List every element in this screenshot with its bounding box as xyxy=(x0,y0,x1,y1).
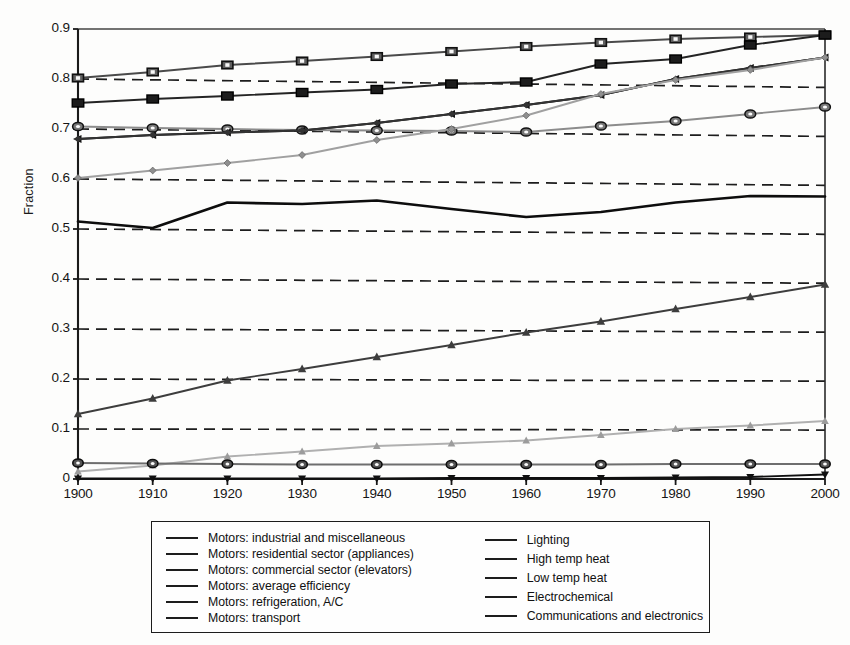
data-marker xyxy=(299,152,306,159)
legend-item: Motors: average efficiency xyxy=(162,578,473,594)
y-tick-label: 0.1 xyxy=(28,420,70,435)
data-marker xyxy=(372,461,382,469)
series-3 xyxy=(78,196,825,228)
y-axis-tick-labels: 0.90.80.70.60.50.40.30.20.10 xyxy=(24,0,70,500)
data-marker xyxy=(595,60,607,68)
series-line xyxy=(78,196,825,228)
data-marker xyxy=(521,128,532,136)
legend-item-label: Motors: transport xyxy=(208,611,300,625)
data-marker xyxy=(73,459,83,467)
data-marker xyxy=(147,68,158,76)
line-plain-icon xyxy=(162,578,202,594)
y-tick-label: 0.4 xyxy=(28,270,70,285)
data-marker xyxy=(371,126,382,134)
legend-item: Motors: transport xyxy=(162,610,473,626)
data-marker xyxy=(446,80,458,88)
data-marker xyxy=(596,461,606,469)
data-marker xyxy=(523,112,530,119)
y-tick-label: 0.2 xyxy=(28,370,70,385)
y-tick-label: 0.7 xyxy=(28,120,70,135)
data-marker xyxy=(148,460,158,468)
legend-item-label: Motors: average efficiency xyxy=(208,579,350,593)
data-marker xyxy=(670,117,681,125)
legend-item-label: High temp heat xyxy=(527,552,610,566)
gridline xyxy=(78,279,825,283)
data-marker xyxy=(670,35,681,43)
legend-item: Electrochemical xyxy=(481,588,703,607)
x-axis-tick-labels: 1900191019201930194019501960197019801990… xyxy=(0,486,850,510)
y-tick-label: 0 xyxy=(28,470,70,485)
triangle-left-filled-icon xyxy=(162,562,202,578)
data-marker xyxy=(745,460,755,468)
x-tick-label: 1920 xyxy=(197,486,257,501)
y-tick-label: 0.9 xyxy=(28,20,70,35)
square-open-icon xyxy=(162,530,202,546)
data-marker xyxy=(149,167,156,174)
data-marker xyxy=(222,61,233,69)
data-marker xyxy=(820,103,831,111)
data-marker xyxy=(297,57,308,65)
x-tick-label: 1910 xyxy=(123,486,183,501)
data-marker xyxy=(72,99,84,107)
triangle-up-light-icon xyxy=(481,532,521,548)
circle-open-icon xyxy=(162,546,202,562)
data-marker xyxy=(446,48,457,56)
gridline xyxy=(78,329,825,332)
gridline xyxy=(78,379,825,381)
legend-item: Low temp heat xyxy=(481,568,703,587)
x-tick-label: 1960 xyxy=(496,486,556,501)
chart-page: Fraction 0.90.80.70.60.50.40.30.20.10 19… xyxy=(0,0,850,645)
y-tick-label: 0.8 xyxy=(28,70,70,85)
x-tick-label: 1950 xyxy=(422,486,482,501)
gridline xyxy=(78,179,825,185)
figure: Fraction 0.90.80.70.60.50.40.30.20.10 19… xyxy=(0,0,850,645)
data-marker xyxy=(222,460,232,468)
legend-item-label: Low temp heat xyxy=(527,571,607,585)
x-tick-label: 1970 xyxy=(571,486,631,501)
legend-item: Motors: residential sector (appliances) xyxy=(162,546,473,562)
data-marker xyxy=(371,86,383,94)
data-marker xyxy=(446,461,456,469)
data-marker xyxy=(297,461,307,469)
legend-column-right: LightingHigh temp heatLow temp heatElect… xyxy=(473,530,703,626)
legend-item-label: Electrochemical xyxy=(527,590,613,604)
x-tick-label: 2000 xyxy=(795,486,850,501)
legend-item: Lighting xyxy=(481,530,703,549)
data-marker xyxy=(521,461,531,469)
series-line xyxy=(78,35,825,78)
y-tick-label: 0.5 xyxy=(28,220,70,235)
x-tick-label: 1940 xyxy=(347,486,407,501)
data-marker xyxy=(75,175,82,182)
triangle-up-filled-icon xyxy=(481,589,521,605)
data-marker xyxy=(147,95,159,103)
legend-item: Motors: industrial and miscellaneous xyxy=(162,530,473,546)
data-marker xyxy=(222,92,234,100)
legend-item: Motors: refrigeration, A/C xyxy=(162,594,473,610)
x-tick-label: 1980 xyxy=(646,486,706,501)
data-marker xyxy=(820,460,830,468)
triangle-down-filled-icon xyxy=(481,608,521,624)
y-tick-label: 0.6 xyxy=(28,170,70,185)
gridline xyxy=(78,229,825,234)
legend-item-label: Motors: refrigeration, A/C xyxy=(208,595,343,609)
data-marker xyxy=(745,41,757,49)
data-marker xyxy=(595,39,606,47)
series-9 xyxy=(74,280,829,417)
legend-item: Communications and electronics xyxy=(481,607,703,626)
legend: Motors: industrial and miscellaneousMoto… xyxy=(151,521,710,633)
x-tick-label: 1900 xyxy=(48,486,108,501)
legend-item-label: Lighting xyxy=(527,533,570,547)
data-marker xyxy=(73,74,84,82)
data-marker xyxy=(296,89,308,97)
data-marker xyxy=(596,122,607,130)
legend-item-label: Communications and electronics xyxy=(527,609,703,623)
series-10 xyxy=(74,471,829,482)
data-marker xyxy=(670,460,680,468)
diamond-light-icon xyxy=(162,610,202,626)
data-marker xyxy=(521,43,532,51)
data-marker xyxy=(224,160,231,167)
legend-item-label: Motors: commercial sector (elevators) xyxy=(208,563,412,577)
data-marker xyxy=(73,122,84,130)
data-marker xyxy=(147,124,158,132)
data-marker xyxy=(371,53,382,61)
